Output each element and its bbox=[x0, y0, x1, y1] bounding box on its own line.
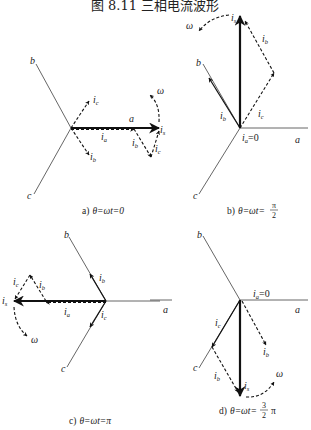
ia-zero-label: ia=0 bbox=[253, 288, 270, 300]
is-label: is bbox=[160, 124, 166, 136]
c-axis-label: c bbox=[193, 362, 198, 373]
caption-a: a)θ=ωt=0 bbox=[82, 206, 124, 217]
ic2-label: ic bbox=[155, 143, 161, 155]
ic-vector bbox=[71, 101, 89, 128]
ib2-label: ib bbox=[132, 137, 139, 149]
omega-label: ω bbox=[186, 20, 193, 31]
rotation-arc-icon bbox=[199, 15, 229, 31]
ib2-label: ib bbox=[262, 33, 269, 45]
caption-d-frac-den: 2 bbox=[262, 411, 266, 420]
ia-label: ia bbox=[101, 131, 107, 143]
ia-zero-label: ia=0 bbox=[242, 132, 259, 144]
panel-c: b c ic ib is ia ib ic ω c)θ=ωt=π bbox=[2, 229, 160, 427]
ic-label: ic bbox=[93, 94, 99, 106]
ic-vector bbox=[240, 73, 274, 128]
space-vector-figure: 图 8.11 三相电流波形 b c a ic ib ia ib ic is ω … bbox=[0, 0, 311, 430]
panel-b: b c a is ib ib ic ia=0 ω b)θ=ωt= π 2 bbox=[186, 12, 308, 220]
caption-d-frac-num: 3 bbox=[262, 401, 266, 410]
a-axis-label: a bbox=[129, 113, 134, 124]
rotation-arc-icon bbox=[150, 95, 159, 122]
b-axis-label: b bbox=[196, 57, 201, 68]
c-axis-label: c bbox=[61, 363, 66, 374]
rotation-arc-icon bbox=[246, 382, 274, 397]
ib-label: ib bbox=[99, 272, 106, 284]
c-axis bbox=[34, 128, 71, 194]
is-label: is bbox=[231, 12, 237, 24]
caption-c: c)θ=ωt=π bbox=[69, 416, 111, 427]
c-axis bbox=[199, 128, 240, 194]
b-axis-label: b bbox=[30, 55, 35, 66]
figure-title: 图 8.11 三相电流波形 bbox=[91, 0, 219, 13]
rotation-arc-icon bbox=[14, 307, 27, 336]
panel-a: b c a ic ib ia ib ic is ω a)θ=ωt=0 bbox=[27, 55, 166, 217]
ib-vector bbox=[71, 128, 89, 155]
caption-b-frac-den: 2 bbox=[272, 211, 276, 220]
is-label: is bbox=[2, 295, 8, 307]
ic2-label: ic bbox=[13, 276, 19, 288]
ib2-label: ib bbox=[214, 370, 221, 382]
ia-label: ia bbox=[64, 306, 70, 318]
b-axis-label: b bbox=[64, 229, 69, 240]
ib-label: ib bbox=[90, 151, 97, 163]
omega-label: ω bbox=[157, 85, 164, 96]
caption-b: b)θ=ωt= bbox=[227, 206, 265, 217]
ic-label: ic bbox=[258, 108, 264, 120]
a-axis-label: a bbox=[295, 304, 300, 315]
c-axis-label: c bbox=[193, 190, 198, 201]
a-axis-label: a bbox=[295, 134, 300, 145]
ic-label: ic bbox=[101, 309, 107, 321]
ib2-label: ib bbox=[39, 279, 46, 291]
ib-translated-vector bbox=[245, 21, 274, 73]
ib-label: ib bbox=[220, 110, 227, 122]
omega-label: ω bbox=[31, 334, 38, 345]
b-axis bbox=[36, 64, 71, 128]
panel-d: a b c a ia=0 ic ib ib is ω d)θ=ωt= 3 2 π bbox=[150, 229, 308, 420]
ic-label: ic bbox=[215, 317, 221, 329]
b-axis bbox=[203, 236, 240, 300]
omega-label: ω bbox=[276, 368, 283, 379]
ib-vector bbox=[242, 301, 266, 345]
b-axis-label: b bbox=[197, 229, 202, 240]
is-label: is bbox=[244, 380, 250, 392]
caption-b-frac-num: π bbox=[272, 201, 276, 210]
ib-label: ib bbox=[263, 346, 270, 358]
caption-d: d)θ=ωt= bbox=[219, 406, 257, 417]
c-axis-label: c bbox=[27, 190, 32, 201]
caption-d-suffix: π bbox=[271, 406, 276, 416]
a-axis-left-label: a bbox=[163, 304, 168, 315]
